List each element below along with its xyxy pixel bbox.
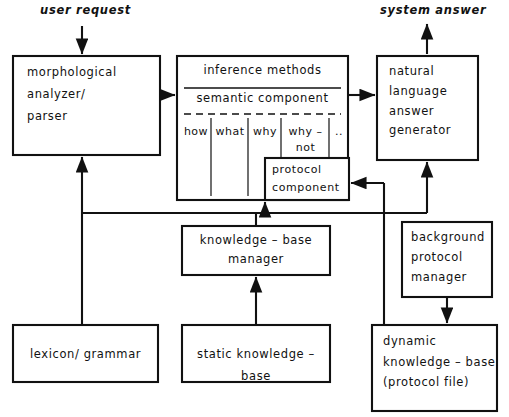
text-background-protocol-manager: background protocol manager bbox=[411, 228, 493, 287]
text-protocol-component: protocol component bbox=[272, 161, 352, 196]
label-user-request: user request bbox=[40, 3, 131, 17]
text-natural-language-generator: natural language answer generator bbox=[389, 62, 479, 141]
text-lexicon-grammar: lexicon/ grammar bbox=[30, 344, 160, 366]
label-system-answer: system answer bbox=[380, 3, 486, 17]
architecture-diagram: user request system answer morphological… bbox=[0, 0, 509, 417]
semantic-cell-why: why bbox=[249, 124, 281, 140]
text-inference-methods: inference methods bbox=[177, 62, 348, 79]
text-knowledge-base-manager: knowledge – base manager bbox=[182, 231, 330, 269]
text-dynamic-knowledge-base: dynamic knowledge – base (protocol file) bbox=[383, 331, 498, 393]
text-semantic-component: semantic component bbox=[177, 90, 348, 107]
semantic-cell-what: what bbox=[212, 124, 248, 140]
text-morphological-analyzer: morphological analyzer/ parser bbox=[27, 62, 157, 128]
semantic-cell-ellipsis: .. bbox=[330, 124, 348, 140]
semantic-cell-why-not: why – not bbox=[283, 124, 328, 156]
text-static-knowledge-base: static knowledge – base bbox=[182, 344, 330, 388]
semantic-cell-how: how bbox=[181, 124, 211, 140]
